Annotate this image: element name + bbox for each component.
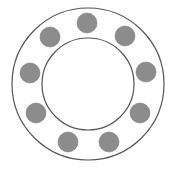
ball-top	[77, 13, 97, 33]
ball-lower-right	[130, 103, 150, 123]
ball-left	[20, 63, 40, 83]
ball-bottom-right	[99, 132, 119, 152]
ball-right	[136, 62, 156, 82]
ball-bottom-left	[58, 132, 78, 152]
ball-upper-left	[40, 27, 60, 47]
ball-upper-right	[115, 26, 135, 46]
ball-lower-left	[26, 103, 46, 123]
concentric-ring-diagram	[0, 0, 170, 172]
